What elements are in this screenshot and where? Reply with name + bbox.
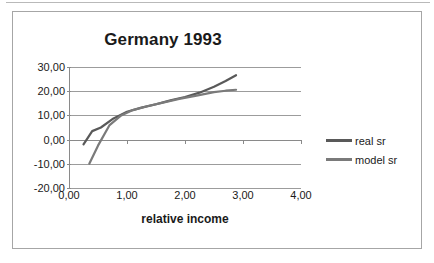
x-axis-tick-label: 2,00 bbox=[163, 189, 207, 201]
x-axis-tick-label: 3,00 bbox=[221, 189, 265, 201]
y-axis-tick-label: 10,00 bbox=[15, 109, 65, 121]
chart-legend: real srmodel sr bbox=[326, 131, 418, 169]
legend-item: real sr bbox=[326, 131, 418, 150]
x-axis-tick bbox=[185, 140, 186, 144]
legend-label: model sr bbox=[355, 154, 397, 166]
chart-title: Germany 1993 bbox=[13, 30, 313, 50]
y-axis-tick-label: 20,00 bbox=[15, 85, 65, 97]
legend-item: model sr bbox=[326, 150, 418, 169]
x-axis-tick bbox=[301, 140, 302, 144]
chart-frame: Germany 1993 30,0020,0010,000,00-10,00-2… bbox=[12, 11, 422, 249]
plot-area bbox=[69, 67, 301, 188]
x-axis-tick-labels: 0,001,002,003,004,00 bbox=[69, 189, 301, 203]
series-lines bbox=[69, 67, 301, 188]
y-axis-tick-label: 30,00 bbox=[15, 61, 65, 73]
x-axis-tick-label: 4,00 bbox=[279, 189, 323, 201]
legend-label: real sr bbox=[355, 135, 386, 147]
y-axis-tick-label: 0,00 bbox=[15, 134, 65, 146]
x-axis-tick bbox=[69, 140, 70, 144]
series-line bbox=[89, 90, 236, 164]
y-axis-tick-label: -10,00 bbox=[15, 158, 65, 170]
legend-line-icon bbox=[326, 158, 352, 161]
x-axis-tick-label: 0,00 bbox=[47, 189, 91, 201]
y-axis-tick-labels: 30,0020,0010,000,00-10,00-20,00 bbox=[13, 67, 65, 188]
legend-line-icon bbox=[326, 139, 352, 142]
x-axis-tick bbox=[127, 140, 128, 144]
x-axis-tick bbox=[243, 140, 244, 144]
page-top-rule bbox=[6, 2, 430, 3]
x-axis-tick-label: 1,00 bbox=[105, 189, 149, 201]
x-axis-title: relative income bbox=[69, 212, 301, 226]
series-line bbox=[84, 75, 237, 144]
